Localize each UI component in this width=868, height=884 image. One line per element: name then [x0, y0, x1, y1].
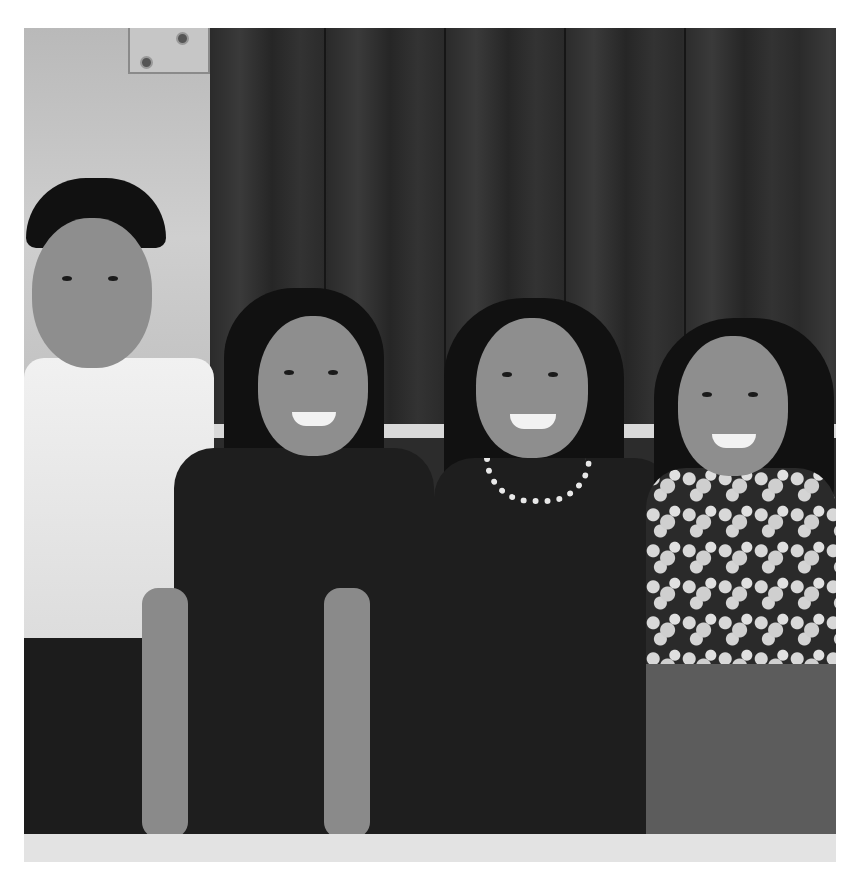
- face: [678, 336, 788, 476]
- eye: [548, 372, 558, 377]
- dark-dress: [434, 458, 674, 862]
- eye: [748, 392, 758, 397]
- floral-top: [646, 468, 836, 668]
- face: [476, 318, 588, 458]
- eye: [328, 370, 338, 375]
- face: [258, 316, 368, 456]
- eye: [702, 392, 712, 397]
- arm: [324, 588, 370, 838]
- arm: [142, 588, 188, 838]
- eye: [108, 276, 118, 281]
- skirt: [646, 664, 836, 862]
- bolt: [140, 56, 153, 69]
- eye: [62, 276, 72, 281]
- hinge-plate: [128, 28, 210, 74]
- smile: [712, 434, 756, 448]
- eye: [284, 370, 294, 375]
- face: [32, 218, 152, 368]
- eye: [502, 372, 512, 377]
- smile: [510, 414, 556, 429]
- ledge: [24, 834, 836, 862]
- bolt: [176, 32, 189, 45]
- dark-dress: [174, 448, 434, 862]
- smile: [292, 412, 336, 426]
- photograph: [24, 28, 836, 862]
